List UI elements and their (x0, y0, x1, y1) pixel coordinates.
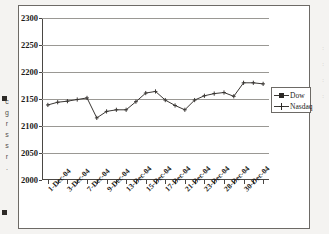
edge-text-left-column: c g r s s r . (0, 96, 14, 173)
edge-text-right-column: : : : : (318, 40, 328, 190)
edge-bullet-marker-bottom (2, 210, 7, 215)
edge-text-fragment: s (5, 140, 9, 151)
legend-marker-cross-icon (274, 102, 289, 111)
line-chart: 2000205021002150220022502300 1-Dec-043-D… (19, 6, 311, 230)
edge-text-fragment: r (6, 151, 8, 162)
edge-text-fragment: : (322, 77, 324, 83)
edge-text-fragment: c (5, 96, 9, 107)
edge-text-fragment: : (322, 61, 324, 67)
chart-figure-frame: 2000205021002150220022502300 1-Dec-043-D… (18, 5, 310, 229)
scan-page-background: c g r s s r . : : : : 200020502100215022… (0, 0, 329, 234)
legend-item-dow[interactable]: Dow (274, 90, 310, 101)
chart-legend: Dow Nasdaq (271, 87, 311, 113)
category-axis-labels: 1-Dec-043-Dec-047-Dec-049-Dec-0413-Dec-0… (19, 6, 311, 230)
edge-text-fragment: s (5, 129, 9, 140)
edge-text-fragment: r (6, 118, 8, 129)
legend-item-nasdaq[interactable]: Nasdaq (274, 101, 310, 112)
edge-text-fragment: . (6, 162, 8, 173)
legend-label-dow: Dow (290, 91, 305, 100)
legend-label-nasdaq: Nasdaq (290, 102, 313, 111)
edge-text-fragment: g (5, 107, 9, 118)
legend-marker-square-icon (274, 91, 289, 100)
edge-text-fragment: : (322, 93, 324, 99)
edge-text-fragment: : (322, 45, 324, 51)
